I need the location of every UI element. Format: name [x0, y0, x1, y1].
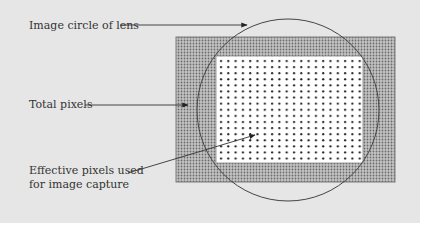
effective-pixels-label-line1: Effective pixels used — [29, 164, 144, 178]
image-circle-label: Image circle of lens — [29, 19, 139, 33]
diagram-canvas: Image circle of lens Total pixels Effect… — [0, 0, 429, 229]
effective-pixels-label-line2: for image capture — [29, 178, 129, 192]
sensor-diagram — [0, 0, 429, 229]
total-pixels-label: Total pixels — [29, 98, 93, 112]
effective-pixels-area — [216, 56, 363, 163]
